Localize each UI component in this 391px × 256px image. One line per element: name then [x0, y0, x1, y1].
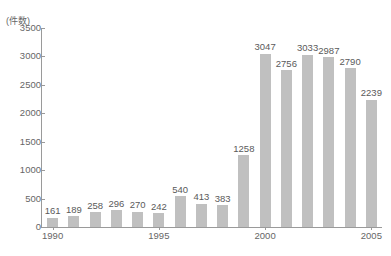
bar-group[interactable]: 3033: [297, 28, 318, 227]
bar[interactable]: [132, 212, 143, 227]
bar-value-label: 2987: [318, 46, 339, 56]
y-axis-tick-label: 2500: [7, 80, 41, 90]
bar[interactable]: [238, 155, 249, 227]
bar-group[interactable]: 2756: [276, 28, 297, 227]
bar-group[interactable]: 383: [212, 28, 233, 227]
y-axis-tick-mark: [41, 227, 45, 228]
y-axis-tick-label: 0: [7, 222, 41, 232]
bar-value-label: 3047: [255, 42, 276, 52]
bar[interactable]: [217, 205, 228, 227]
bar[interactable]: [68, 216, 79, 227]
bar[interactable]: [47, 218, 58, 227]
bar[interactable]: [366, 100, 377, 227]
y-axis-tick-label: 1500: [7, 137, 41, 147]
bar-chart: (件数) 0500100015002000250030003500 161189…: [0, 0, 391, 256]
x-axis-tick-label: 2005: [361, 231, 382, 241]
bar-group[interactable]: 2790: [340, 28, 361, 227]
bar-value-label: 540: [172, 185, 188, 195]
bar[interactable]: [153, 213, 164, 227]
bar-group[interactable]: 1258: [233, 28, 254, 227]
bar-group[interactable]: 413: [191, 28, 212, 227]
bar-value-label: 2790: [340, 57, 361, 67]
x-axis-tick-label: 1995: [148, 231, 169, 241]
y-axis-tick-label: 1000: [7, 165, 41, 175]
bar-group[interactable]: 296: [106, 28, 127, 227]
bar-group[interactable]: 2239: [361, 28, 382, 227]
bar-group[interactable]: 540: [170, 28, 191, 227]
y-axis-tick-label: 3000: [7, 51, 41, 61]
x-axis-line: [41, 227, 382, 228]
plot-area: 1611892582962702425404133831258304727563…: [42, 28, 382, 227]
bar[interactable]: [345, 68, 356, 227]
bar[interactable]: [196, 204, 207, 227]
bar-group[interactable]: 3047: [255, 28, 276, 227]
x-axis-tick-label: 2000: [255, 231, 276, 241]
bar-value-label: 189: [66, 205, 82, 215]
bar-group[interactable]: 2987: [318, 28, 339, 227]
bar[interactable]: [111, 210, 122, 227]
bar[interactable]: [260, 54, 271, 227]
bar-group[interactable]: 258: [85, 28, 106, 227]
bar[interactable]: [281, 70, 292, 227]
bar-group[interactable]: 161: [42, 28, 63, 227]
bar-group[interactable]: 189: [63, 28, 84, 227]
bar-group[interactable]: 270: [127, 28, 148, 227]
bar-value-label: 413: [193, 192, 209, 202]
bar-value-label: 3033: [297, 43, 318, 53]
bar-group[interactable]: 242: [148, 28, 169, 227]
bar[interactable]: [302, 55, 313, 227]
bar-value-label: 258: [87, 201, 103, 211]
y-axis-tick-label: 2000: [7, 108, 41, 118]
bar-value-label: 2239: [361, 88, 382, 98]
x-axis-tick-label: 1990: [42, 231, 63, 241]
bar-value-label: 296: [108, 199, 124, 209]
bar[interactable]: [323, 57, 334, 227]
bar-value-label: 1258: [233, 144, 254, 154]
bar-value-label: 270: [130, 200, 146, 210]
y-axis-tick-label: 500: [7, 194, 41, 204]
bar-value-label: 383: [215, 194, 231, 204]
bar[interactable]: [90, 212, 101, 227]
bar-value-label: 2756: [276, 59, 297, 69]
bar-value-label: 161: [45, 206, 61, 216]
bar-value-label: 242: [151, 202, 167, 212]
y-axis-tick-label: 3500: [7, 23, 41, 33]
bar[interactable]: [175, 196, 186, 227]
